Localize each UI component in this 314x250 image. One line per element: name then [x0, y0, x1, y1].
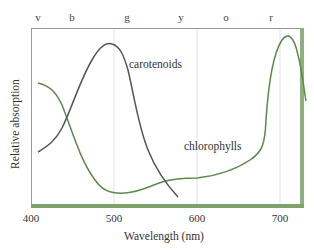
- carotenoids-label: carotenoids: [129, 58, 182, 70]
- y-axis-label: Relative absorption: [9, 64, 21, 184]
- xtick-500: 500: [106, 212, 123, 224]
- xtick-400: 400: [23, 212, 40, 224]
- plot-frame: [32, 29, 302, 206]
- x-axis-label: Wavelength (nm): [0, 230, 314, 242]
- absorption-chart: [0, 0, 314, 250]
- chlorophylls-label: chlorophylls: [184, 140, 242, 152]
- xtick-700: 700: [272, 212, 289, 224]
- frame-accent-bottom: [31, 204, 304, 208]
- xtick-600: 600: [189, 212, 206, 224]
- frame-accent-right: [300, 28, 304, 208]
